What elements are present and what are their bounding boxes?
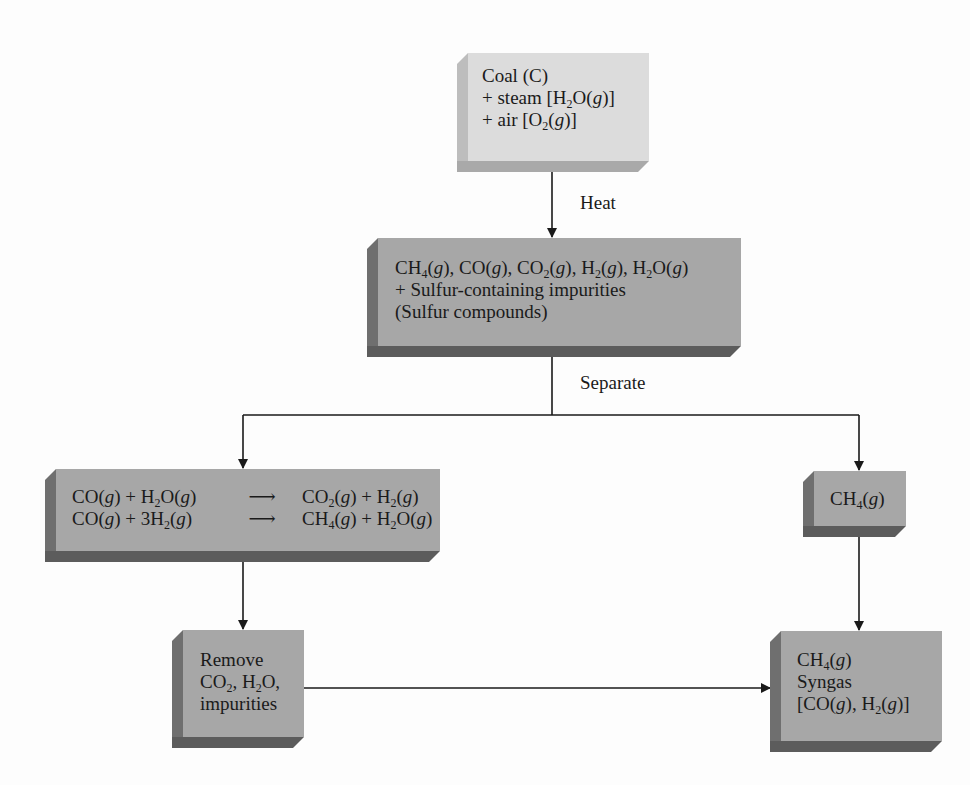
box-corner [770,631,781,642]
box-corner [803,471,814,482]
text-line: (Sulfur compounds) [395,301,688,323]
reactants: CO(g) + 3H2(g) [72,508,222,530]
edge-label-heat: Heat [580,192,616,214]
box-corner [45,469,56,480]
reaction-equations: CO(g) + H2O(g)⟶CO2(g) + H2(g)CO(g) + 3H2… [72,486,432,530]
box-bottom [457,161,649,172]
node-reactions: CO(g) + H2O(g)⟶CO2(g) + H2(g)CO(g) + 3H2… [45,469,440,562]
text-line: Syngas [797,671,910,693]
node-gas-mixture: CH4(g), CO(g), CO2(g), H2(g), H2O(g)+ Su… [367,238,741,357]
reactants: CO(g) + H2O(g) [72,486,222,508]
node-methane: CH4(g) [803,471,906,537]
text-line: CH4(g) [830,488,885,510]
text-line: CH4(g), CO(g), CO2(g), H2(g), H2O(g) [395,257,688,279]
box-side [457,64,468,172]
reaction-arrow-icon: ⟶ [222,486,302,508]
node-remove-impurities: RemoveCO2, H2O,impurities [172,630,304,748]
box-bottom [172,737,304,748]
text-line: CH4(g) [797,649,910,671]
box-corner [293,737,304,748]
text-line: Coal (C) [482,65,615,87]
products: CH4(g) + H2O(g) [302,508,432,530]
node-coal-input: Coal (C)+ steam [H2O(g)]+ air [O2(g)] [457,53,649,172]
node-text: CH4(g)Syngas[CO(g), H2(g)] [797,649,910,715]
text-line: CO2, H2O, [200,671,280,693]
edge-label-separate: Separate [580,372,645,394]
node-product-syngas: CH4(g)Syngas[CO(g), H2(g)] [770,631,942,752]
box-bottom [803,526,906,537]
box-side [45,480,56,562]
reaction-arrow-icon: ⟶ [222,508,302,530]
box-corner [367,238,378,249]
box-corner [172,630,183,641]
text-line: + steam [H2O(g)] [482,87,615,109]
node-text: CH4(g) [830,488,885,510]
chemical-equation: CO(g) + 3H2(g)⟶CH4(g) + H2O(g) [72,508,432,530]
text-line: + air [O2(g)] [482,109,615,131]
text-line: impurities [200,693,280,715]
chemical-equation: CO(g) + H2O(g)⟶CO2(g) + H2(g) [72,486,432,508]
products: CO2(g) + H2(g) [302,486,419,508]
text-line: [CO(g), H2(g)] [797,693,910,715]
text-line: + Sulfur-containing impurities [395,279,688,301]
node-text: CH4(g), CO(g), CO2(g), H2(g), H2O(g)+ Su… [395,257,688,323]
node-text: Coal (C)+ steam [H2O(g)]+ air [O2(g)] [482,65,615,131]
box-bottom [45,551,440,562]
box-corner [931,741,942,752]
box-corner [429,551,440,562]
node-text: RemoveCO2, H2O,impurities [200,649,280,715]
box-corner [730,346,741,357]
box-bottom [770,741,942,752]
box-corner [895,526,906,537]
box-side [172,641,183,748]
text-line: Remove [200,649,280,671]
box-corner [638,161,649,172]
box-side [770,642,781,752]
box-corner [457,53,468,64]
box-side [367,249,378,357]
box-bottom [367,346,741,357]
